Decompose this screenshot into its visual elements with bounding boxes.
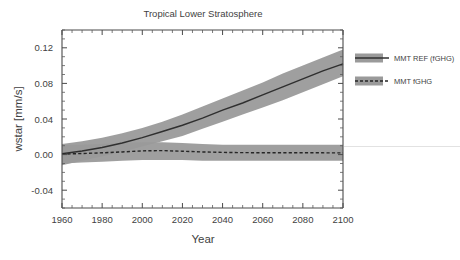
x-tick-labels: 19601980200020202040206020802100 xyxy=(51,214,353,225)
y-tick-label: -0.04 xyxy=(31,185,53,196)
chart-legend: MMT REF (fGHG)MMT fGHG xyxy=(355,54,455,87)
x-tick-label: 2020 xyxy=(172,214,193,225)
x-tick-label: 2080 xyxy=(292,214,313,225)
legend-swatch-2 xyxy=(355,77,383,86)
y-tick-label: 0.12 xyxy=(35,42,54,53)
chart-figure: Tropical Lower Stratosphere 196019802000… xyxy=(0,0,460,260)
y-tick-label: 0.04 xyxy=(35,114,54,125)
x-tick-label: 2060 xyxy=(252,214,273,225)
y-tick-labels: -0.040.000.040.080.12 xyxy=(31,42,53,195)
x-tick-label: 1960 xyxy=(51,214,72,225)
y-tick-label: 0.08 xyxy=(35,78,54,89)
x-tick-label: 1980 xyxy=(92,214,113,225)
x-tick-label: 2000 xyxy=(132,214,153,225)
x-tick-label: 2040 xyxy=(212,214,233,225)
x-tick-label: 2100 xyxy=(332,214,353,225)
legend-label-2: MMT fGHG xyxy=(394,77,432,86)
uncertainty-bands xyxy=(62,50,343,166)
tropical-lower-stratosphere-chart: Tropical Lower Stratosphere 196019802000… xyxy=(0,0,460,260)
y-axis-title: wstar [mm/s] xyxy=(12,86,24,152)
chart-title: Tropical Lower Stratosphere xyxy=(144,8,263,19)
y-tick-label: 0.00 xyxy=(35,149,54,160)
legend-label-1: MMT REF (fGHG) xyxy=(394,54,455,63)
x-axis-title: Year xyxy=(191,233,214,245)
